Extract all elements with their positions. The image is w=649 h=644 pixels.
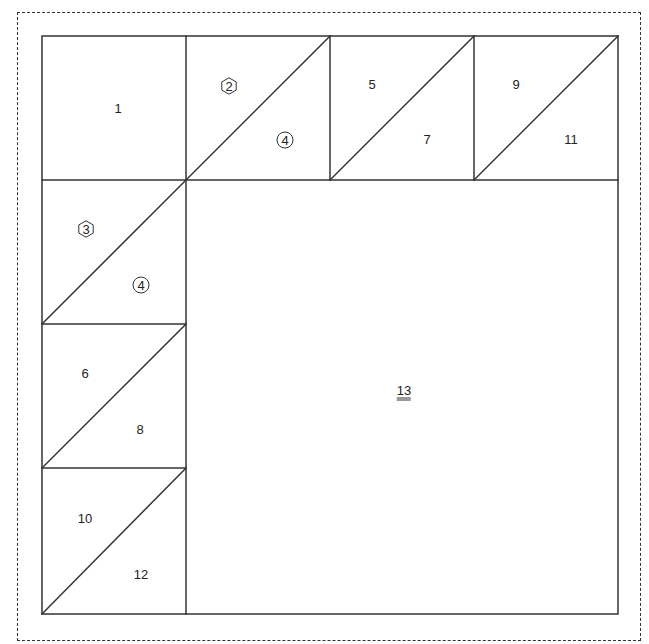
hst-diagonal [42,468,186,614]
piece-label-2: 2 [220,77,238,95]
piece-number: 3 [82,223,89,236]
piece-label-8: 8 [136,423,143,436]
piece-label-6: 6 [81,367,88,380]
piece-label-10: 10 [78,512,92,525]
hst-diagonal [186,36,330,180]
hst-diagonal [474,36,618,180]
hst-diagonal [42,324,186,468]
piece-label-4a: 4 [277,132,294,149]
piece-label-5: 5 [368,78,375,91]
piece-label-12: 12 [134,568,148,581]
piece-label-4b: 4 [133,277,150,294]
piece-label-11: 11 [564,133,578,146]
piece-number: 2 [225,80,232,93]
piece-label-7: 7 [423,133,430,146]
hst-diagonal [330,36,474,180]
piece-label-1: 1 [114,102,121,115]
piece-label-3: 3 [77,220,95,238]
piece-label-9: 9 [512,78,519,91]
quilt-block-diagram [0,0,649,644]
hst-diagonal [42,180,186,324]
piece-label-13: 13 [397,384,411,401]
